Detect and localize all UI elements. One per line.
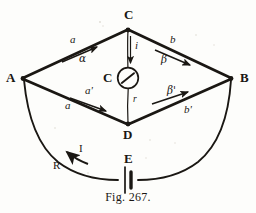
wire-galvanometer-to-D xyxy=(128,89,129,123)
branch-label-a-lower: a xyxy=(65,100,71,111)
wire-C-to-B xyxy=(129,30,231,78)
branch-label-b-prime: b' xyxy=(184,104,192,115)
branch-label-b: b xyxy=(170,34,176,45)
wire-D-to-B xyxy=(129,79,231,124)
galvanometer-label: C xyxy=(103,71,113,84)
circuit-diagram-svg xyxy=(0,0,256,213)
current-arrow-alpha-prime xyxy=(70,98,106,111)
branch-current-label-a-prime: a' xyxy=(85,85,93,96)
node-label-A: A xyxy=(6,71,16,84)
branch-current-label-beta: β xyxy=(161,54,167,65)
node-label-D: D xyxy=(123,128,133,141)
node-label-C: C xyxy=(124,8,134,21)
bridge-current-label-i: i xyxy=(135,40,138,51)
branch-label-a: a xyxy=(70,34,76,45)
node-label-B: B xyxy=(240,71,249,84)
wire-A-to-battery-arc xyxy=(24,80,118,180)
bridge-resistance-label-r: r xyxy=(133,95,137,105)
external-resistance-label-R: R xyxy=(53,160,60,171)
external-current-label-I: I xyxy=(79,143,83,154)
galvanometer-symbol xyxy=(118,68,139,89)
figure-container: A B C D C E a α b β a a' b' β' i r I R F… xyxy=(0,0,256,213)
wire-battery-to-B-arc xyxy=(138,80,231,180)
branch-current-label-alpha: α xyxy=(79,53,86,64)
figure-caption: Fig. 267. xyxy=(0,190,256,205)
wire-A-to-D xyxy=(23,79,127,124)
branch-current-label-beta-prime: β' xyxy=(167,85,176,96)
battery-label-E: E xyxy=(124,152,133,165)
current-arrow-I xyxy=(67,152,88,164)
